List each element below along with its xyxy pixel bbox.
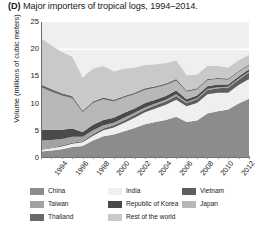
x-tick-mark — [114, 156, 115, 159]
legend-label: Republic of Korea — [126, 200, 178, 208]
legend-swatch — [182, 201, 196, 208]
x-tick-2006: 2006 — [177, 159, 194, 177]
x-tick-1996: 1996 — [73, 159, 90, 177]
legend-label: Japan — [200, 200, 218, 208]
x-tick-2000: 2000 — [115, 159, 132, 177]
x-tick-1998: 1998 — [94, 159, 111, 177]
legend-item-thailand[interactable]: Thailand — [30, 213, 73, 221]
legend-swatch — [30, 214, 44, 221]
y-tick-15: 15 — [17, 72, 39, 80]
y-tick-20: 20 — [17, 45, 39, 53]
x-tick-2008: 2008 — [198, 159, 215, 177]
legend-item-japan[interactable]: Japan — [182, 200, 218, 208]
legend-swatch — [30, 201, 44, 208]
x-tick-mark — [155, 156, 156, 159]
x-tick-mark — [218, 156, 219, 159]
legend-swatch — [108, 214, 122, 221]
x-tick-2012: 2012 — [239, 159, 256, 177]
figure-panel-d: (D) Major importers of tropical logs, 19… — [0, 0, 258, 234]
legend-swatch — [108, 201, 122, 208]
legend-label: India — [126, 187, 140, 195]
stacked-area-chart — [41, 22, 249, 158]
legend-label: Rest of the world — [126, 213, 175, 221]
x-tick-1994: 1994 — [52, 159, 69, 177]
x-tick-2010: 2010 — [219, 159, 236, 177]
legend-swatch — [108, 188, 122, 195]
chart-legend: ChinaIndiaVietnamTaiwanRepublic of Korea… — [30, 187, 258, 229]
x-tick-2004: 2004 — [156, 159, 173, 177]
y-tick-25: 25 — [17, 18, 39, 26]
y-tick-5: 5 — [17, 127, 39, 135]
x-tick-mark — [176, 156, 177, 159]
legend-item-taiwan[interactable]: Taiwan — [30, 200, 69, 208]
legend-item-vietnam[interactable]: Vietnam — [182, 187, 224, 195]
legend-item-republic-of-korea[interactable]: Republic of Korea — [108, 200, 178, 208]
chart-title: (D) Major importers of tropical logs, 19… — [8, 1, 256, 11]
legend-swatch — [30, 188, 44, 195]
legend-label: China — [48, 187, 65, 195]
legend-label: Taiwan — [48, 200, 69, 208]
legend-label: Thailand — [48, 213, 73, 221]
chart-title-text: Major importers of tropical logs, 1994–2… — [23, 1, 198, 11]
legend-item-china[interactable]: China — [30, 187, 65, 195]
x-tick-mark — [239, 156, 240, 159]
y-tick-0: 0 — [17, 154, 39, 162]
x-tick-mark — [197, 156, 198, 159]
x-tick-mark — [72, 156, 73, 159]
x-tick-mark — [41, 156, 42, 159]
legend-item-rest-of-the-world[interactable]: Rest of the world — [108, 213, 175, 221]
legend-swatch — [182, 188, 196, 195]
x-tick-mark — [93, 156, 94, 159]
x-tick-2002: 2002 — [135, 159, 152, 177]
y-tick-10: 10 — [17, 100, 39, 108]
legend-item-india[interactable]: India — [108, 187, 140, 195]
plot-area — [41, 22, 249, 158]
legend-label: Vietnam — [200, 187, 224, 195]
x-tick-mark — [135, 156, 136, 159]
x-tick-mark — [51, 156, 52, 159]
